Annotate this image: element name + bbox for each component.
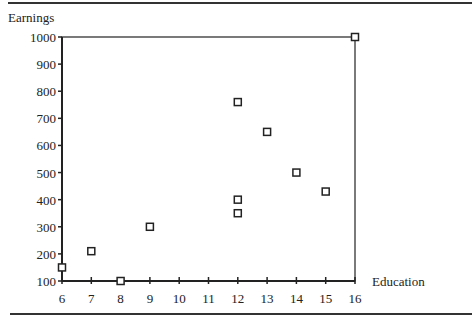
y-tick-label: 200 bbox=[37, 247, 57, 262]
data-point-marker bbox=[234, 196, 241, 203]
data-point-marker bbox=[264, 128, 271, 135]
x-tick-label: 6 bbox=[59, 291, 66, 306]
data-point-marker bbox=[146, 223, 153, 230]
y-tick-label: 300 bbox=[37, 220, 57, 235]
y-tick-label: 400 bbox=[37, 193, 57, 208]
y-tick-label: 700 bbox=[37, 111, 57, 126]
data-point-marker bbox=[234, 99, 241, 106]
data-point-marker bbox=[88, 248, 95, 255]
x-tick-label: 12 bbox=[231, 291, 244, 306]
data-point-marker bbox=[352, 34, 359, 41]
y-tick-label: 600 bbox=[37, 138, 57, 153]
x-tick-label: 7 bbox=[88, 291, 95, 306]
x-tick-label: 9 bbox=[147, 291, 154, 306]
x-tick-label: 8 bbox=[117, 291, 124, 306]
y-axis-ticks: 1002003004005006007008009001000 bbox=[30, 30, 62, 289]
x-tick-label: 13 bbox=[261, 291, 274, 306]
x-tick-label: 15 bbox=[319, 291, 332, 306]
y-tick-label: 500 bbox=[37, 166, 57, 181]
data-point-marker bbox=[59, 264, 66, 271]
y-tick-label: 900 bbox=[37, 57, 57, 72]
y-tick-label: 100 bbox=[37, 274, 57, 289]
plot-frame bbox=[62, 37, 355, 281]
data-points bbox=[59, 34, 359, 285]
data-point-marker bbox=[117, 278, 124, 285]
x-tick-label: 11 bbox=[202, 291, 215, 306]
y-tick-label: 1000 bbox=[30, 30, 56, 45]
x-axis-label: Education bbox=[372, 274, 425, 289]
data-point-marker bbox=[322, 188, 329, 195]
scatter-chart: Earnings Education 100200300400500600700… bbox=[0, 0, 476, 320]
y-axis-label: Earnings bbox=[8, 10, 54, 25]
data-point-marker bbox=[234, 210, 241, 217]
x-tick-label: 14 bbox=[290, 291, 304, 306]
x-tick-label: 10 bbox=[173, 291, 186, 306]
data-point-marker bbox=[293, 169, 300, 176]
y-tick-label: 800 bbox=[37, 84, 57, 99]
x-tick-label: 16 bbox=[349, 291, 363, 306]
